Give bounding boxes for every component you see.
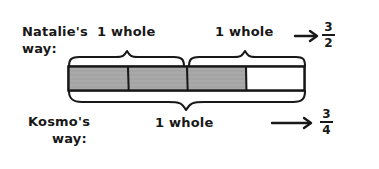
brace-kosmo-full xyxy=(69,91,305,110)
kosmo-brace-label: 1 whole xyxy=(155,115,213,130)
kosmo-result-denominator: 4 xyxy=(320,124,333,136)
divider-1 xyxy=(128,67,129,90)
natalie-name-line2: way: xyxy=(22,41,57,56)
fraction-diagram-canvas: Natalie's way: 1 whole 1 whole 3 2 Kosmo… xyxy=(0,0,379,169)
kosmo-result-numerator: 3 xyxy=(320,108,333,120)
kosmo-brace xyxy=(69,91,305,110)
kosmo-result-fraction: 3 4 xyxy=(320,108,333,136)
arrow-right-icon-kosmo xyxy=(272,118,311,128)
kosmo-name-line1: Kosmo's xyxy=(28,114,90,129)
brace-natalie-left xyxy=(69,51,184,66)
brace-natalie-right xyxy=(189,51,305,66)
natalie-result-denominator: 2 xyxy=(322,37,335,49)
fraction-bar xyxy=(69,67,305,91)
natalie-braces xyxy=(69,51,305,66)
natalie-brace-label-right: 1 whole xyxy=(215,24,273,39)
divider-2 xyxy=(187,67,188,90)
natalie-name-line1: Natalie's xyxy=(22,24,88,39)
natalie-result-fraction: 3 2 xyxy=(322,21,335,49)
natalie-result-numerator: 3 xyxy=(322,21,335,33)
bar-cell-4 xyxy=(247,68,304,90)
arrow-right-icon-natalie xyxy=(295,31,317,41)
natalie-brace-label-left: 1 whole xyxy=(97,24,155,39)
kosmo-name-line2: way: xyxy=(52,131,87,146)
